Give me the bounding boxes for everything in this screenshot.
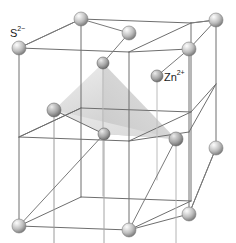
anion-label: S2− (10, 24, 25, 40)
cation-label: Zn2+ (164, 68, 184, 84)
anion-label-charge: 2− (17, 25, 25, 32)
unit-cell-drawing (0, 0, 236, 243)
zinc-blende-figure: S2− Zn2+ (0, 0, 236, 243)
cation-label-charge: 2+ (177, 69, 185, 76)
cation-label-base: Zn (164, 71, 177, 83)
